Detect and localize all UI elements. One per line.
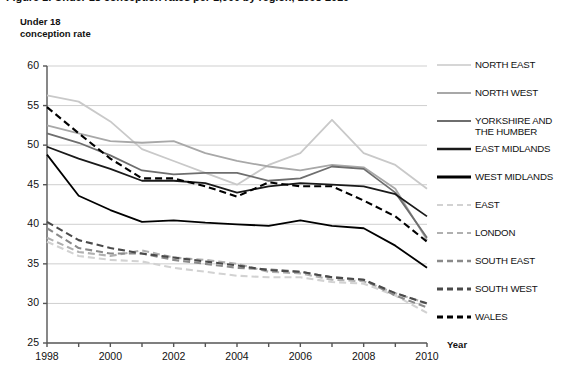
legend-label: EAST <box>475 198 500 210</box>
x-tick-label: 1998 <box>27 350 67 362</box>
series-line-south-west <box>47 222 427 304</box>
legend-label: EAST MIDLANDS <box>475 142 550 154</box>
legend-item-south-west[interactable]: SOUTH WEST <box>437 282 584 310</box>
legend-label: NORTH EAST <box>475 58 535 70</box>
series-line-north-west <box>47 125 427 240</box>
series-line-east <box>47 242 427 313</box>
x-tick-label: 2004 <box>217 350 257 362</box>
legend-swatch-solid-icon <box>437 115 471 127</box>
legend-swatch-dashed-icon <box>437 227 471 239</box>
x-tick-label: 2000 <box>90 350 130 362</box>
legend-label: NORTH WEST <box>475 86 538 98</box>
y-tick-label: 25 <box>13 336 39 348</box>
y-tick-label: 40 <box>13 217 39 229</box>
legend-swatch-solid-icon <box>437 59 471 71</box>
legend-label: LONDON <box>475 226 515 238</box>
x-tick-label: 2002 <box>154 350 194 362</box>
chart-figure: Figure 1: Under 18 conception rates per … <box>0 0 584 379</box>
y-tick-label: 35 <box>13 257 39 269</box>
legend-label: WALES <box>475 310 508 322</box>
legend-swatch-solid-icon <box>437 171 471 183</box>
x-tick-label: 2006 <box>280 350 320 362</box>
legend-item-north-east[interactable]: NORTH EAST <box>437 58 584 86</box>
legend-label: WEST MIDLANDS <box>475 170 553 182</box>
y-tick-label: 45 <box>13 178 39 190</box>
x-axis-title: Year <box>447 339 467 350</box>
x-tick-label: 2008 <box>344 350 384 362</box>
legend-label: SOUTH WEST <box>475 282 538 294</box>
series-line-east-midlands <box>47 147 427 217</box>
series-line-london <box>47 238 427 304</box>
y-tick-label: 60 <box>13 59 39 71</box>
legend-swatch-dashed-icon <box>437 199 471 211</box>
legend-item-wales[interactable]: WALES <box>437 310 584 338</box>
legend-swatch-dashed-icon <box>437 255 471 267</box>
legend-swatch-solid-icon <box>437 87 471 99</box>
legend-label: SOUTH EAST <box>475 254 535 266</box>
series-line-south-east <box>47 228 427 307</box>
legend-swatch-dashed-icon <box>437 283 471 295</box>
legend-item-yorkshire-and-the-humber[interactable]: YORKSHIRE AND THE HUMBER <box>437 114 584 142</box>
legend-item-east[interactable]: EAST <box>437 198 584 226</box>
x-tick-label: 2010 <box>407 350 447 362</box>
legend-item-north-west[interactable]: NORTH WEST <box>437 86 584 114</box>
legend-swatch-dashed-icon <box>437 311 471 323</box>
legend-label: YORKSHIRE AND THE HUMBER <box>475 114 552 137</box>
legend-item-south-east[interactable]: SOUTH EAST <box>437 254 584 282</box>
legend-item-east-midlands[interactable]: EAST MIDLANDS <box>437 142 584 170</box>
y-tick-label: 55 <box>13 99 39 111</box>
chart-legend: NORTH EASTNORTH WESTYORKSHIRE AND THE HU… <box>437 58 584 338</box>
legend-item-west-midlands[interactable]: WEST MIDLANDS <box>437 170 584 198</box>
y-tick-label: 50 <box>13 138 39 150</box>
legend-swatch-solid-icon <box>437 143 471 155</box>
legend-item-london[interactable]: LONDON <box>437 226 584 254</box>
y-tick-label: 30 <box>13 296 39 308</box>
